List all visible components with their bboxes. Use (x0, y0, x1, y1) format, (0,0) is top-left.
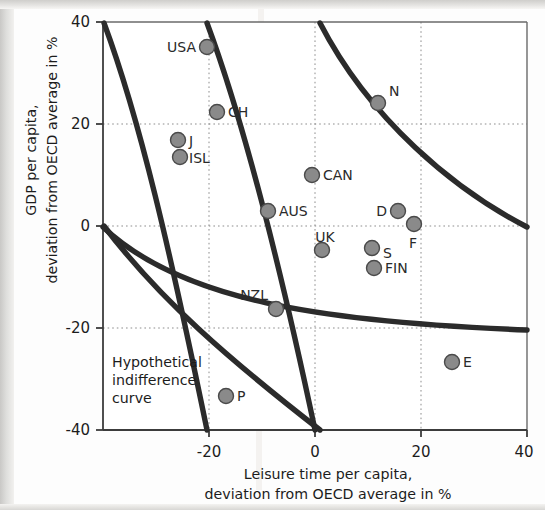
annotation-line-2: indifference (112, 372, 196, 388)
data-label-f: F (409, 235, 417, 251)
data-label-nzl: NZL (240, 287, 268, 303)
ytick-label--40: -40 (66, 421, 91, 439)
data-point-can[interactable] (305, 168, 320, 183)
data-label-usa: USA (167, 39, 196, 55)
xtick-label-40: 40 (514, 443, 533, 461)
data-label-p: P (237, 388, 245, 404)
xtick-label--20: -20 (197, 443, 222, 461)
chart-figure: 40 20 0 -20 -40 -20 0 20 40 USA CH J ISL… (0, 0, 545, 510)
data-label-n: N (389, 83, 399, 99)
ytick-label--20: -20 (66, 319, 91, 337)
data-point-f[interactable] (407, 217, 422, 232)
data-label-ch: CH (228, 104, 248, 120)
data-point-ch[interactable] (210, 105, 225, 120)
data-point-isl[interactable] (173, 150, 188, 165)
annotation-line-1: Hypothetical (112, 354, 202, 370)
data-label-e: E (463, 354, 472, 370)
data-label-d: D (376, 203, 387, 219)
data-point-p[interactable] (219, 389, 234, 404)
data-label-isl: ISL (189, 150, 210, 166)
ytick-label-0: 0 (80, 217, 90, 235)
xtick-label-0: 0 (310, 443, 320, 461)
data-label-aus: AUS (279, 203, 308, 219)
x-axis-title-line-1: Leisure time per capita, (244, 466, 412, 482)
x-axis-ticks (209, 430, 527, 437)
data-label-can: CAN (323, 167, 353, 183)
data-point-usa[interactable] (200, 40, 215, 55)
xtick-label-20: 20 (411, 443, 430, 461)
data-point-s[interactable] (365, 241, 380, 256)
ytick-label-20: 20 (71, 115, 90, 133)
y-axis-title-line-2: deviation from OECD average in % (44, 37, 60, 284)
data-point-fin[interactable] (367, 261, 382, 276)
data-point-d[interactable] (391, 204, 406, 219)
data-point-e[interactable] (445, 355, 460, 370)
data-label-s: S (383, 245, 392, 261)
data-label-j: J (188, 133, 193, 149)
ytick-label-40: 40 (71, 13, 90, 31)
data-label-uk: UK (315, 229, 335, 245)
data-point-aus[interactable] (261, 204, 276, 219)
data-point-nzl[interactable] (269, 302, 284, 317)
scatter-chart: 40 20 0 -20 -40 -20 0 20 40 USA CH J ISL… (0, 0, 545, 510)
data-label-fin: FIN (385, 260, 408, 276)
data-point-j[interactable] (171, 133, 186, 148)
data-point-n[interactable] (371, 96, 386, 111)
y-axis-title-line-1: GDP per capita, (23, 104, 39, 215)
x-axis-title-line-2: deviation from OECD average in % (205, 486, 452, 502)
annotation-line-3: curve (112, 390, 152, 406)
